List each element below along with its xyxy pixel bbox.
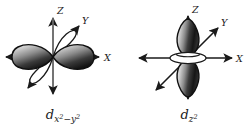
- caption-dx2y2-sup-y: 2: [76, 113, 80, 121]
- orbital-diagram-dx2y2: Z X Y: [0, 0, 126, 112]
- axis-label-z: Z: [56, 5, 64, 16]
- orbital-panel-dx2y2: Z X Y: [0, 0, 126, 135]
- caption-dx2y2: dx2−y2: [0, 108, 126, 124]
- caption-dx2y2-minus: −: [63, 114, 71, 124]
- lobe-z-negative-shape: [177, 60, 199, 97]
- orbital-panel-dz2: X Y Z: [126, 0, 252, 135]
- axis-label-x: X: [235, 53, 244, 64]
- axis-label-y: Y: [221, 17, 229, 28]
- caption-dz2-symbol: d: [180, 107, 188, 122]
- caption-dz2: dz2: [126, 108, 252, 124]
- torus-ring-outline: [170, 52, 206, 63]
- lobe-z-positive: [177, 19, 199, 56]
- torus-ring: [170, 52, 206, 63]
- axis-label-x: X: [103, 52, 112, 63]
- orbital-diagram-dz2: X Y Z: [126, 0, 252, 112]
- axis-label-y: Y: [82, 15, 90, 26]
- caption-dz2-sup-z: 2: [193, 113, 197, 121]
- axis-label-z: Z: [191, 4, 199, 15]
- lobe-z-negative: [177, 60, 199, 97]
- lobe-z-positive-shape: [177, 19, 199, 56]
- d-orbital-figure: Z X Y: [0, 0, 252, 135]
- caption-dx2y2-symbol: d: [46, 107, 54, 122]
